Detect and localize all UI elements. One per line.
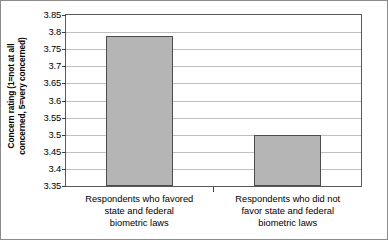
bar-chart-figure: Concern rating (1=not at all concerned, …: [0, 0, 388, 240]
y-axis-tick-label: 3.65: [44, 77, 61, 88]
y-axis-tick-label: 3.35: [44, 180, 61, 191]
x-axis-center-tick: [213, 187, 214, 192]
y-axis-tick-mark: [62, 32, 66, 33]
bar: [106, 36, 173, 186]
y-axis-tick-mark: [62, 15, 66, 16]
y-axis-tick-mark: [62, 101, 66, 102]
plot-area: [65, 14, 362, 187]
y-axis-tick-label: 3.8: [49, 26, 61, 37]
y-axis-tick-label: 3.5: [49, 128, 61, 139]
x-axis-category-label-line: state and federal: [67, 205, 212, 217]
y-axis-tick-mark: [62, 49, 66, 50]
x-axis-category-label-line: Respondents who did not: [216, 193, 361, 205]
x-axis-category-labels: Respondents who favoredstate and federal…: [65, 193, 362, 239]
y-axis-tick-label: 3.55: [44, 111, 61, 122]
y-axis-tick-mark: [62, 83, 66, 84]
y-axis-tick-mark: [62, 118, 66, 119]
y-axis-title-line-2: concerned, 5=very concerned): [16, 3, 27, 189]
y-axis-title-line-1: Concern rating (1=not at all: [6, 3, 17, 189]
y-axis-tick-mark: [62, 186, 66, 187]
y-axis-tick-mark: [62, 169, 66, 170]
y-axis-tick-label: 3.4: [49, 162, 61, 173]
x-axis-category-label: Respondents who favoredstate and federal…: [65, 193, 214, 239]
y-axis-tick-labels: 3.853.83.753.73.653.63.553.53.453.43.35: [27, 1, 65, 191]
y-axis-tick-label: 3.85: [44, 9, 61, 20]
gridline: [66, 32, 361, 33]
y-axis-tick-label: 3.6: [49, 94, 61, 105]
y-axis-tick-mark: [62, 66, 66, 67]
x-axis-category-label-line: biometric laws: [216, 217, 361, 229]
y-axis-title-text: Concern rating (1=not at all concerned, …: [6, 3, 27, 189]
x-axis-category-label-line: Respondents who favored: [67, 193, 212, 205]
y-axis-tick-label: 3.7: [49, 60, 61, 71]
x-axis-category-label: Respondents who did notfavor state and f…: [214, 193, 363, 239]
y-axis-tick-mark: [62, 152, 66, 153]
y-axis-tick-mark: [62, 135, 66, 136]
bar: [254, 135, 321, 186]
y-axis-tick-label: 3.45: [44, 145, 61, 156]
x-axis-category-label-line: biometric laws: [67, 217, 212, 229]
y-axis-tick-label: 3.75: [44, 43, 61, 54]
x-axis-category-label-line: favor state and federal: [216, 205, 361, 217]
